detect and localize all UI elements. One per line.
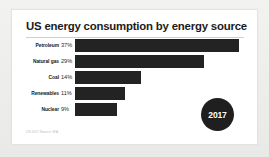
year-badge: 2017 — [201, 98, 234, 131]
bar-petroleum — [75, 39, 239, 52]
bar-label-nuclear: Nuclear — [12, 103, 59, 116]
chart-card: US energy consumption by energy source P… — [11, 9, 258, 145]
bar-natural-gas — [75, 55, 204, 68]
bar-value-petroleum: 37% — [61, 39, 74, 52]
bar-label-renewables: Renewables — [12, 87, 59, 100]
source-note: US 2017 Source: EIA — [26, 130, 58, 134]
bar-coal — [75, 71, 141, 84]
bar-row-petroleum: Petroleum 37% — [12, 39, 258, 52]
bar-value-renewables: 11% — [61, 87, 74, 100]
page-title: US energy consumption by energy source — [26, 20, 247, 32]
title-divider — [26, 37, 244, 38]
bar-value-coal: 14% — [61, 71, 74, 84]
bar-label-petroleum: Petroleum — [12, 39, 59, 52]
bar-label-coal: Coal — [12, 71, 59, 84]
bar-row-coal: Coal 14% — [12, 71, 258, 84]
bar-nuclear — [75, 103, 117, 116]
bar-value-nuclear: 9% — [61, 103, 74, 116]
screenshot-stage: US energy consumption by energy source P… — [0, 0, 269, 157]
bar-renewables — [75, 87, 125, 100]
bar-label-natural-gas: Natural gas — [12, 55, 59, 68]
bar-value-natural-gas: 29% — [61, 55, 74, 68]
bar-row-natural-gas: Natural gas 29% — [12, 55, 258, 68]
